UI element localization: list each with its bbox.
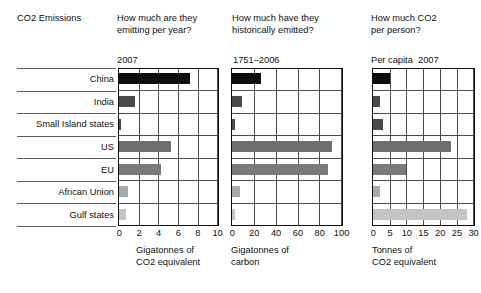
row-separator xyxy=(17,158,116,159)
bar-eu xyxy=(232,164,328,175)
gridline-horizontal xyxy=(232,113,342,114)
x-axis-ticks-panel-1: 0246810 xyxy=(118,228,219,241)
bar-us xyxy=(232,141,332,152)
gridline-horizontal xyxy=(119,158,218,159)
row-label-column: ChinaIndiaSmall Island statesUSEUAfrican… xyxy=(17,68,116,226)
bar-eu xyxy=(373,164,406,175)
x-tick-label: 8 xyxy=(195,228,200,238)
row-separator xyxy=(17,68,116,69)
panel-2-question: How much have they historically emitted? xyxy=(232,13,319,36)
x-axis-label-panel-3: Tonnes of CO2 equivalent xyxy=(372,245,436,268)
x-tick-label: 100 xyxy=(334,228,350,238)
gridline-horizontal xyxy=(119,113,218,114)
gridline-horizontal xyxy=(232,180,342,181)
row-separator xyxy=(17,181,116,182)
row-label-eu: EU xyxy=(101,165,114,175)
gridline-horizontal xyxy=(232,90,342,91)
panel-2-subheader: 1751–2006 xyxy=(233,55,280,66)
x-tick-label: 2 xyxy=(136,228,141,238)
x-tick-label: 20 xyxy=(435,228,445,238)
gridline-vertical xyxy=(341,69,342,225)
row-label-china: China xyxy=(90,74,114,84)
x-axis-label-panel-2: Gigatonnes of carbon xyxy=(231,245,289,268)
gridline-vertical xyxy=(457,69,458,225)
row-separator xyxy=(17,203,116,204)
bar-eu xyxy=(119,164,161,175)
gridline-horizontal xyxy=(232,158,342,159)
panel-1-subheader: 2007 xyxy=(117,55,138,66)
gridline-vertical xyxy=(198,69,199,225)
bar-us xyxy=(119,141,171,152)
x-tick-label: 4 xyxy=(156,228,161,238)
bar-small-island-states xyxy=(119,119,121,130)
row-separator xyxy=(17,113,116,114)
bar-african-union xyxy=(232,186,240,197)
x-tick-label: 25 xyxy=(452,228,462,238)
x-tick-label: 10 xyxy=(212,228,222,238)
bar-small-island-states xyxy=(373,119,383,130)
gridline-vertical xyxy=(178,69,179,225)
gridline-horizontal xyxy=(119,203,218,204)
gridline-horizontal xyxy=(232,203,342,204)
gridline-horizontal xyxy=(373,158,474,159)
x-tick-label: 80 xyxy=(315,228,325,238)
x-tick-label: 0 xyxy=(230,228,235,238)
bar-china xyxy=(232,73,261,84)
gridline-horizontal xyxy=(119,180,218,181)
figure-title: CO2 Emissions xyxy=(17,13,81,25)
x-tick-label: 0 xyxy=(117,228,122,238)
panel-3-question: How much CO2 per person? xyxy=(371,13,437,36)
x-axis-ticks-panel-3: 051015202530 xyxy=(372,228,475,241)
x-tick-label: 6 xyxy=(176,228,181,238)
x-tick-label: 30 xyxy=(468,228,478,238)
x-tick-label: 5 xyxy=(388,228,393,238)
gridline-horizontal xyxy=(373,90,474,91)
bar-african-union xyxy=(119,186,128,197)
gridline-horizontal xyxy=(373,203,474,204)
bar-gulf-states xyxy=(232,209,235,220)
gridline-horizontal xyxy=(119,135,218,136)
bar-india xyxy=(232,96,242,107)
x-axis-ticks-panel-2: 020406080100 xyxy=(231,228,343,241)
plot-area-annual-emissions xyxy=(118,68,219,226)
row-label-gulf-states: Gulf states xyxy=(70,210,114,220)
gridline-horizontal xyxy=(373,135,474,136)
gridline-horizontal xyxy=(232,135,342,136)
panel-1-question: How much are they emitting per year? xyxy=(117,13,197,36)
bar-small-island-states xyxy=(232,119,235,130)
gridline-horizontal xyxy=(373,180,474,181)
x-tick-label: 40 xyxy=(271,228,281,238)
x-tick-label: 10 xyxy=(402,228,412,238)
bar-china xyxy=(373,73,390,84)
row-label-small-island-states: Small Island states xyxy=(36,119,114,129)
row-separator xyxy=(17,226,116,227)
x-tick-label: 20 xyxy=(249,228,259,238)
x-axis-label-panel-1: Gigatonnes of CO2 equivalent xyxy=(136,245,200,268)
plot-area-historical-emissions xyxy=(231,68,343,226)
gridline-vertical xyxy=(217,69,218,225)
x-tick-label: 15 xyxy=(418,228,428,238)
bar-india xyxy=(373,96,380,107)
row-separator xyxy=(17,91,116,92)
plot-area-per-capita-emissions xyxy=(372,68,475,226)
row-separator xyxy=(17,136,116,137)
panel-3-subheader: Per capita 2007 xyxy=(371,55,439,66)
bar-india xyxy=(119,96,135,107)
bar-gulf-states xyxy=(373,209,467,220)
bar-china xyxy=(119,73,190,84)
gridline-vertical xyxy=(473,69,474,225)
co2-emissions-chart-figure: CO2 Emissions How much are they emitting… xyxy=(0,0,481,293)
row-label-india: India xyxy=(94,97,114,107)
row-label-us: US xyxy=(101,142,114,152)
x-tick-label: 0 xyxy=(371,228,376,238)
bar-african-union xyxy=(373,186,380,197)
bar-gulf-states xyxy=(119,209,126,220)
bar-us xyxy=(373,141,451,152)
gridline-horizontal xyxy=(373,113,474,114)
row-label-african-union: African Union xyxy=(58,187,114,197)
gridline-horizontal xyxy=(119,90,218,91)
x-tick-label: 60 xyxy=(293,228,303,238)
